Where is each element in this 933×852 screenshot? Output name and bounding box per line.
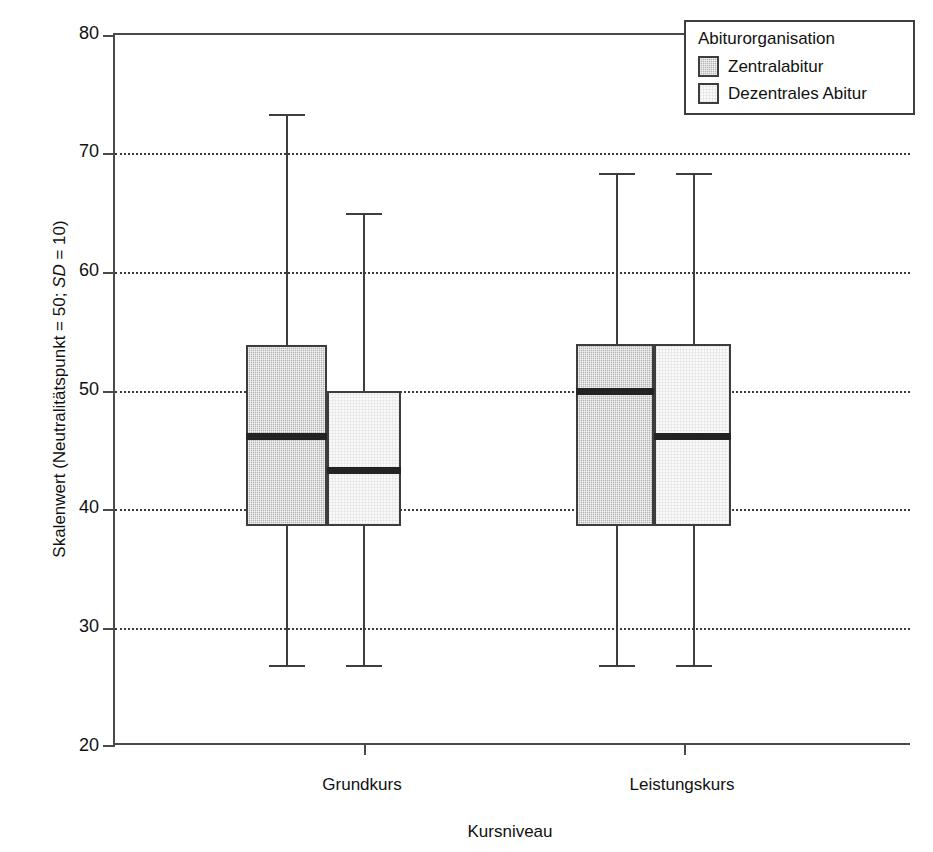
y-tick-label-60: 60 bbox=[53, 261, 99, 279]
x-tick-label-grundkurs: Grundkurs bbox=[242, 775, 482, 795]
y-tickmark-60 bbox=[103, 272, 115, 274]
y-tick-label-30: 30 bbox=[53, 617, 99, 635]
legend-swatch-zentralabitur bbox=[698, 56, 719, 77]
y-axis-title-prefix: Skalenwert (Neutralitätspunkt = 50; bbox=[50, 288, 69, 558]
y-tickmark-50 bbox=[103, 391, 115, 393]
legend-swatch-dezentrales-abitur bbox=[698, 83, 719, 104]
x-tickmark-leistungskurs bbox=[684, 743, 686, 755]
whisker-cap-upper bbox=[676, 173, 712, 175]
y-tickmark-80 bbox=[103, 35, 115, 37]
y-tickmark-30 bbox=[103, 628, 115, 630]
legend-item-zentralabitur: Zentralabitur bbox=[698, 56, 903, 77]
y-tick-label-80: 80 bbox=[53, 24, 99, 42]
whisker-cap-lower bbox=[676, 665, 712, 667]
median-line bbox=[654, 433, 731, 440]
y-tickmark-70 bbox=[103, 153, 115, 155]
x-tick-label-leistungskurs: Leistungskurs bbox=[562, 775, 802, 795]
plot-area bbox=[113, 33, 910, 745]
legend: Abiturorganisation Zentralabitur Dezentr… bbox=[684, 20, 915, 115]
box-leistungskurs-dezentrales-abitur bbox=[115, 35, 910, 743]
legend-label-zentralabitur: Zentralabitur bbox=[728, 57, 823, 77]
x-axis-title: Kursniveau bbox=[110, 822, 910, 842]
y-axis-title-tail: = 10) bbox=[50, 220, 69, 264]
legend-item-dezentrales-abitur: Dezentrales Abitur bbox=[698, 83, 903, 104]
y-tick-label-70: 70 bbox=[53, 142, 99, 160]
y-tick-label-50: 50 bbox=[53, 380, 99, 398]
boxplot-figure: Skalenwert (Neutralitätspunkt = 50; SD =… bbox=[0, 0, 933, 852]
y-tick-label-40: 40 bbox=[53, 498, 99, 516]
x-tickmark-grundkurs bbox=[364, 743, 366, 755]
y-tick-label-20: 20 bbox=[53, 736, 99, 754]
y-tickmark-20 bbox=[103, 745, 115, 747]
legend-label-dezentrales-abitur: Dezentrales Abitur bbox=[728, 84, 867, 104]
legend-title: Abiturorganisation bbox=[698, 29, 903, 49]
y-tickmark-40 bbox=[103, 509, 115, 511]
